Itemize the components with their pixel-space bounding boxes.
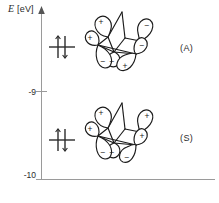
svg-text:−: −: [110, 56, 115, 66]
svg-text:−: −: [101, 147, 106, 157]
svg-text:+: +: [123, 61, 128, 71]
svg-text:−: −: [125, 152, 130, 162]
svg-text:−: −: [140, 40, 145, 50]
up-arrow-icon: [38, 6, 45, 14]
svg-text:+: +: [99, 17, 104, 27]
svg-text:+: +: [88, 124, 93, 134]
svg-text:+: +: [145, 111, 150, 121]
y-tick-label-minus10: -10: [6, 170, 36, 180]
symmetry-label-A: (A): [180, 43, 193, 53]
y-tick-label-minus9: -9: [8, 87, 36, 97]
svg-text:−: −: [101, 56, 106, 66]
energy-level-S[interactable]: [47, 127, 77, 153]
svg-text:+: +: [140, 131, 145, 141]
electron-pair-icon: [47, 127, 77, 153]
figure-canvas: E [eV] -9 -10: [0, 0, 219, 203]
svg-text:+: +: [99, 108, 104, 118]
svg-text:−: −: [110, 147, 115, 157]
orbital-diagram-A: + − + − − − +: [84, 5, 166, 89]
svg-text:+: +: [88, 33, 93, 43]
electron-pair-icon: [47, 34, 77, 60]
svg-text:−: −: [145, 20, 150, 30]
symmetry-label-S: (S): [180, 133, 193, 143]
energy-level-A[interactable]: [47, 34, 77, 60]
orbital-diagram-S: + + + + − − −: [84, 96, 166, 180]
